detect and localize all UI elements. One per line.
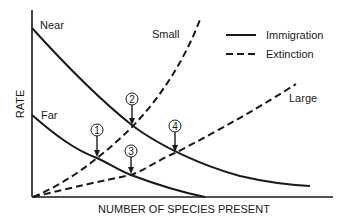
marker-1: 1 (91, 124, 103, 157)
y-axis-title: RATE (14, 90, 26, 119)
label-far: Far (41, 109, 58, 121)
island-biogeography-diagram: RATE NUMBER OF SPECIES PRESENT Near Far … (0, 0, 350, 219)
legend: Immigration Extinction (226, 29, 323, 60)
extinction-small-curve (33, 17, 201, 197)
marker-2: 2 (126, 93, 138, 125)
x-axis-title: NUMBER OF SPECIES PRESENT (98, 203, 270, 215)
label-near: Near (40, 19, 64, 31)
legend-extinction-label: Extinction (266, 48, 314, 60)
label-large: Large (289, 92, 317, 104)
legend-immigration-label: Immigration (266, 29, 323, 41)
marker-3: 3 (125, 145, 137, 174)
label-small: Small (152, 28, 180, 40)
marker-1-number: 1 (94, 125, 100, 136)
marker-3-arrowhead-icon (128, 167, 134, 174)
marker-4-number: 4 (172, 121, 178, 132)
marker-2-number: 2 (129, 94, 135, 105)
marker-3-number: 3 (128, 146, 134, 157)
marker-4: 4 (169, 120, 181, 152)
